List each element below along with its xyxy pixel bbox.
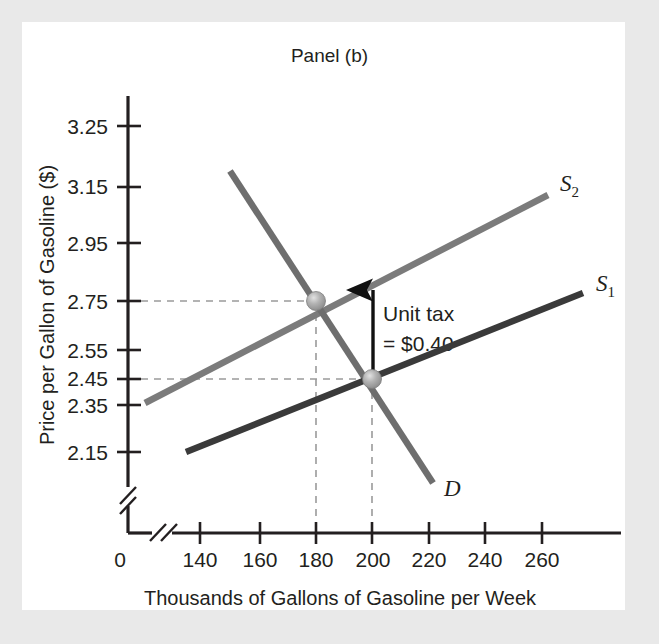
curve-s1 bbox=[186, 293, 583, 452]
figure-page: Panel (b) Price per Gallon of Gasoline (… bbox=[0, 0, 659, 644]
y-axis bbox=[117, 96, 141, 533]
x-axis bbox=[128, 522, 621, 544]
curve-s2 bbox=[145, 195, 548, 403]
equilibrium-marker-after-tax bbox=[307, 292, 326, 311]
chart-canvas bbox=[0, 0, 659, 644]
y-axis-break-mark-1 bbox=[120, 487, 136, 504]
equilibrium-marker-before-tax bbox=[363, 370, 382, 389]
curve-demand bbox=[230, 171, 433, 483]
